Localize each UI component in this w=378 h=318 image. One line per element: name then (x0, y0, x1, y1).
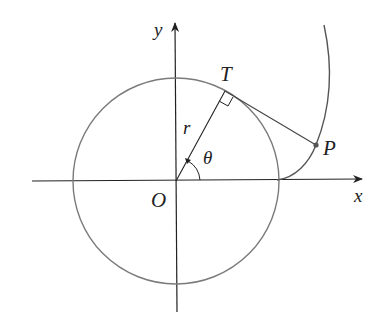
x-axis (32, 179, 362, 181)
tangent-point-label: T (220, 64, 232, 85)
point-p (313, 142, 318, 147)
diagram-canvas (0, 0, 378, 318)
involute-diagram: y x O T r θ P (0, 0, 378, 318)
angle-arc (188, 161, 200, 180)
point-p-label: P (323, 138, 336, 159)
x-axis-label: x (354, 186, 362, 205)
radius-label: r (183, 118, 190, 137)
y-axis (175, 23, 177, 312)
tangent-line (225, 91, 316, 145)
involute-curve (277, 25, 329, 180)
origin-label: O (151, 190, 166, 211)
y-axis-label: y (154, 20, 162, 39)
angle-label: θ (203, 148, 212, 167)
